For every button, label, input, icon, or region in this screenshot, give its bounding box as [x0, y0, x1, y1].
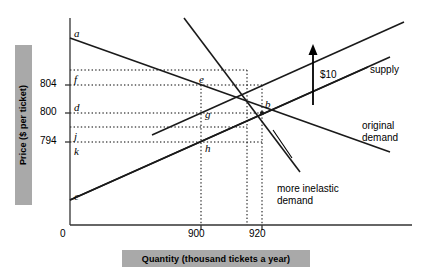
point-label-g: g [205, 108, 211, 120]
point-label-k: k [74, 145, 79, 157]
axes [70, 18, 412, 225]
arrow-head-icon [309, 44, 318, 55]
x-tick-label-900: 900 [188, 228, 205, 239]
point-label-e: e [199, 73, 204, 85]
inelastic-demand-label-line2: demand [277, 195, 313, 207]
y-tick-marks [65, 85, 70, 142]
supply-curve-original [70, 67, 368, 200]
point-b-dot [260, 111, 264, 115]
point-label-c: c [74, 190, 79, 202]
point-label-h: h [205, 142, 211, 154]
tax-arrow-label: $10 [320, 69, 337, 81]
original-demand-label-line1: original [362, 120, 394, 132]
tax-arrow [309, 44, 318, 105]
point-label-b: b [265, 98, 271, 110]
x-tick-label-920: 920 [249, 228, 266, 239]
original-demand-curve [70, 38, 390, 152]
inelastic-demand-label-line1: more inelastic [277, 183, 339, 195]
point-label-a: a [74, 27, 80, 39]
supply-label: supply [370, 64, 399, 76]
point-label-d: d [74, 101, 80, 113]
y-tick-label-800: 800 [40, 106, 57, 117]
point-label-j: j [74, 130, 77, 142]
y-tick-label-804: 804 [40, 78, 57, 89]
inelastic-demand-leader-line [273, 130, 292, 158]
guide-lines [70, 70, 262, 225]
y-tick-label-794: 794 [40, 135, 57, 146]
point-label-f: f [74, 73, 77, 85]
original-demand-label-line2: demand [362, 132, 398, 144]
x-tick-label-0: 0 [60, 228, 66, 239]
supply-curve-with-tax [152, 22, 404, 135]
supply-lines [70, 22, 404, 200]
